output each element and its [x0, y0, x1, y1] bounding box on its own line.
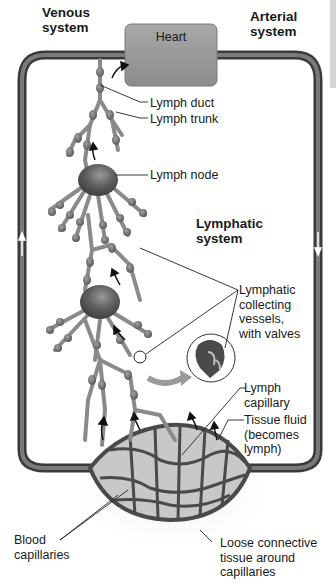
loose-connective-tissue-label: Loose connective tissue around capillari… — [220, 536, 317, 580]
tissue-fluid-label: Tissue fluid (becomes lymph) — [244, 413, 307, 457]
lymph-trunk-label: Lymph trunk — [150, 112, 218, 127]
arterial-system-heading: Arterial system — [250, 9, 297, 39]
lymphatic-system-heading: Lymphatic system — [196, 216, 263, 246]
heart-label: Heart — [126, 30, 216, 44]
valve-magnified — [187, 334, 235, 382]
magnify-arrow — [148, 378, 182, 383]
valve-highlight — [134, 351, 146, 363]
page-edge-strip — [330, 0, 336, 88]
lymph-node-upper — [78, 164, 118, 196]
blood-capillaries-label: Blood capillaries — [14, 533, 70, 562]
lymph-node-label: Lymph node — [150, 168, 218, 183]
lymphatic-diagram: Venous system Arterial system Heart Lymp… — [0, 0, 336, 583]
collecting-vessels-label: Lymphatic collecting vessels, with valve… — [239, 283, 300, 341]
flow-arrows — [19, 232, 321, 256]
lymph-duct-label: Lymph duct — [150, 96, 214, 111]
lymph-capillary-label: Lymph capillary — [244, 381, 290, 410]
venous-system-heading: Venous system — [42, 5, 90, 35]
lymph-node-lower — [80, 285, 120, 319]
